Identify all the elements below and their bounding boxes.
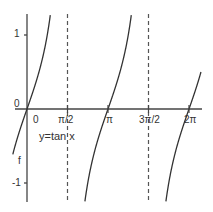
y-tick-label-0: 0: [14, 99, 20, 109]
x-tick-label-two-pi: 2π: [184, 115, 196, 125]
x-tick-label-three-half-pi: 3π/2: [139, 115, 160, 125]
curve-annotation: y=tan x: [39, 131, 75, 141]
x-tick-label-pi: π: [106, 115, 113, 125]
y-tick-label-1: 1: [14, 29, 20, 39]
y-tick-label-neg1: -1: [12, 178, 21, 188]
tan-branch: [166, 72, 201, 201]
x-tick-label-half-pi: π/2: [58, 115, 73, 125]
f-label: f: [18, 156, 21, 166]
tan-curves: [13, 15, 201, 201]
tan-plot: [0, 0, 213, 212]
x-tick-label-0: 0: [33, 115, 39, 125]
